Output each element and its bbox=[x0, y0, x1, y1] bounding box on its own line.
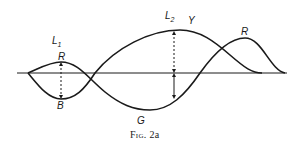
label-G: G bbox=[137, 116, 145, 126]
label-B: B bbox=[57, 101, 64, 111]
label-L2: L2 bbox=[165, 11, 174, 23]
wave-diagram bbox=[0, 0, 298, 142]
caption-number: 2a bbox=[149, 129, 159, 140]
label-L1: L1 bbox=[52, 36, 61, 48]
figure-caption: Fig. 2a bbox=[130, 129, 160, 140]
wave-2-curve bbox=[28, 30, 262, 99]
caption-prefix: Fig. bbox=[130, 129, 147, 140]
label-R-left: R bbox=[58, 52, 65, 62]
label-R-right: R bbox=[241, 27, 248, 37]
label-Y: Y bbox=[188, 16, 195, 26]
